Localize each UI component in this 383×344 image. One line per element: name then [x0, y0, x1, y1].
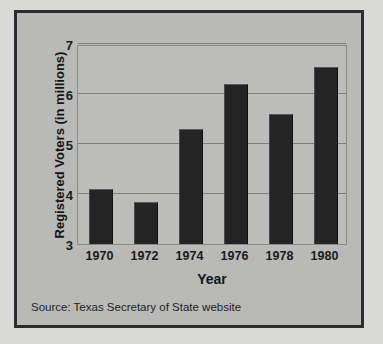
x-axis-tick-label: 1972 — [122, 249, 168, 263]
gridline — [78, 193, 346, 194]
bar — [269, 114, 293, 244]
bar — [89, 189, 113, 244]
gridline — [78, 93, 346, 94]
bar — [224, 84, 248, 244]
x-axis-tick-label: 1978 — [257, 249, 303, 263]
gridline — [78, 143, 346, 144]
x-axis-tick-label: 1980 — [302, 249, 348, 263]
x-axis-tick-label: 1976 — [212, 249, 258, 263]
x-axis-tick-label: 1974 — [167, 249, 213, 263]
plot-area — [77, 45, 347, 245]
x-axis-ticks: 197019721974197619781980 — [77, 249, 347, 267]
chart-figure: Registered Voters (in millions) 34567 19… — [14, 10, 364, 328]
y-axis-tick-label: 7 — [51, 39, 73, 52]
y-axis-tick-label: 5 — [51, 139, 73, 152]
gridline — [78, 43, 346, 44]
bar — [179, 129, 203, 244]
x-axis-title: Year — [77, 271, 347, 287]
bar — [314, 67, 338, 245]
source-note: Source: Texas Secretary of State website — [31, 301, 241, 313]
bar — [134, 202, 158, 245]
y-axis-tick-label: 6 — [51, 89, 73, 102]
x-axis-tick-label: 1970 — [77, 249, 123, 263]
y-axis-tick-label: 4 — [51, 189, 73, 202]
y-axis-ticks: 34567 — [45, 45, 73, 245]
y-axis-tick-label: 3 — [51, 239, 73, 252]
